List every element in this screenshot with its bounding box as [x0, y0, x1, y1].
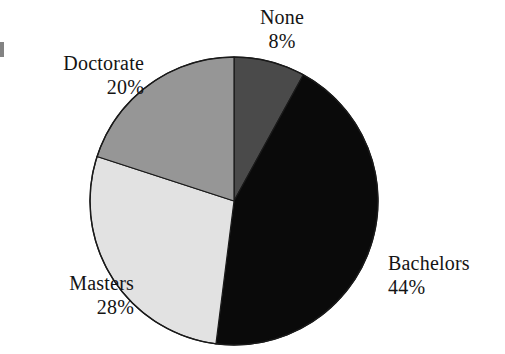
pie-label-bachelors-value: 44%: [388, 276, 505, 300]
pie-label-none-name: None: [222, 6, 342, 30]
pie-label-doctorate: Doctorate 20%: [0, 52, 144, 99]
pie-label-bachelors: Bachelors 44%: [388, 252, 505, 299]
pie-label-doctorate-name: Doctorate: [0, 52, 144, 76]
pie-label-none: None 8%: [222, 6, 342, 53]
pie-chart-figure: None 8% Doctorate 20% Masters 28% Bachel…: [0, 0, 505, 354]
pie-label-masters-value: 28%: [0, 296, 134, 320]
pie-label-doctorate-value: 20%: [0, 76, 144, 100]
pie-label-none-value: 8%: [222, 30, 342, 54]
scan-edge-artifact: [0, 42, 4, 57]
pie-label-masters: Masters 28%: [0, 272, 134, 319]
pie-label-bachelors-name: Bachelors: [388, 252, 505, 276]
pie-label-masters-name: Masters: [0, 272, 134, 296]
